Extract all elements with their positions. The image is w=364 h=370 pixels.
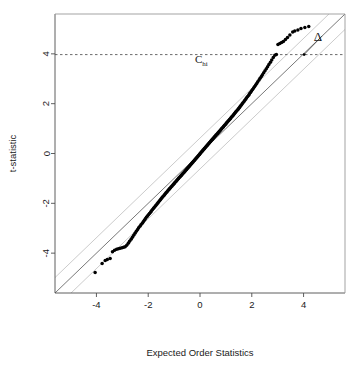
- y-axis-title: t-statistic: [7, 135, 18, 173]
- data-point: [100, 262, 104, 266]
- data-point: [307, 25, 311, 29]
- y-tick-label: -2: [41, 199, 52, 207]
- x-tick-label: 0: [197, 299, 202, 310]
- data-point: [275, 53, 279, 57]
- data-point: [303, 26, 307, 30]
- delta-anchor-point: [303, 53, 306, 56]
- data-point: [93, 271, 97, 275]
- y-tick-label: 0: [41, 151, 52, 156]
- x-tick-label: 4: [301, 299, 306, 310]
- chart-canvas: -4-2024-4-2024Expected Order Statisticst…: [0, 0, 364, 370]
- qq-plot-figure: -4-2024-4-2024Expected Order Statisticst…: [0, 0, 364, 370]
- data-point: [288, 33, 292, 37]
- data-point: [108, 257, 112, 261]
- x-tick-label: -2: [144, 299, 152, 310]
- y-tick-label: -4: [41, 249, 52, 257]
- data-point: [296, 28, 300, 32]
- data-point: [293, 29, 297, 33]
- x-tick-label: 2: [249, 299, 254, 310]
- x-axis-title: Expected Order Statistics: [146, 347, 253, 358]
- y-tick-label: 2: [41, 101, 52, 106]
- delta-annotation: Δ: [314, 29, 322, 44]
- data-point: [299, 27, 303, 31]
- y-tick-label: 4: [41, 51, 52, 56]
- x-tick-label: -4: [92, 299, 100, 310]
